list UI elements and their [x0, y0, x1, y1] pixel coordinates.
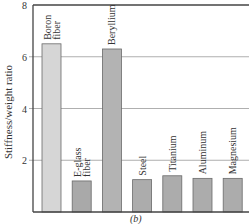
bar	[193, 178, 212, 212]
svg-text:Magnesium: Magnesium	[227, 127, 238, 174]
svg-text:fiber: fiber	[51, 20, 62, 40]
bar-label: Magnesium	[227, 127, 238, 174]
svg-text:Beryllium: Beryllium	[106, 4, 117, 45]
svg-text:Aluminum: Aluminum	[197, 131, 208, 175]
bars	[42, 44, 242, 212]
y-tick-label: 8	[22, 0, 27, 11]
bar-label: Titanium	[167, 135, 178, 172]
bar	[72, 181, 91, 212]
bar-label: Boronfiber	[42, 15, 62, 40]
bar	[163, 176, 182, 212]
bar-label: Beryllium	[106, 4, 117, 45]
y-axis-label: Stiffness/weight ratio	[2, 64, 14, 159]
svg-text:fiber: fiber	[81, 157, 92, 177]
bar-chart: 2468 BoronfiberE-glassfiberBerylliumStee…	[0, 0, 249, 224]
y-tick-label: 6	[22, 52, 27, 63]
bar-labels: BoronfiberE-glassfiberBerylliumSteelTita…	[42, 4, 239, 177]
y-tick-label: 4	[22, 104, 27, 115]
svg-text:Steel: Steel	[137, 155, 148, 175]
bar-label: Aluminum	[197, 131, 208, 175]
y-tick-labels: 2468	[22, 0, 27, 166]
bar-label: Steel	[137, 155, 148, 175]
bar	[223, 178, 242, 212]
bar	[102, 49, 121, 212]
svg-text:Titanium: Titanium	[167, 135, 178, 172]
bar	[133, 180, 152, 212]
bar	[42, 44, 61, 212]
gridlines	[29, 57, 249, 161]
y-tick-label: 2	[22, 155, 27, 166]
panel-label: (b)	[130, 213, 142, 224]
bar-label: E-glassfiber	[72, 147, 92, 177]
